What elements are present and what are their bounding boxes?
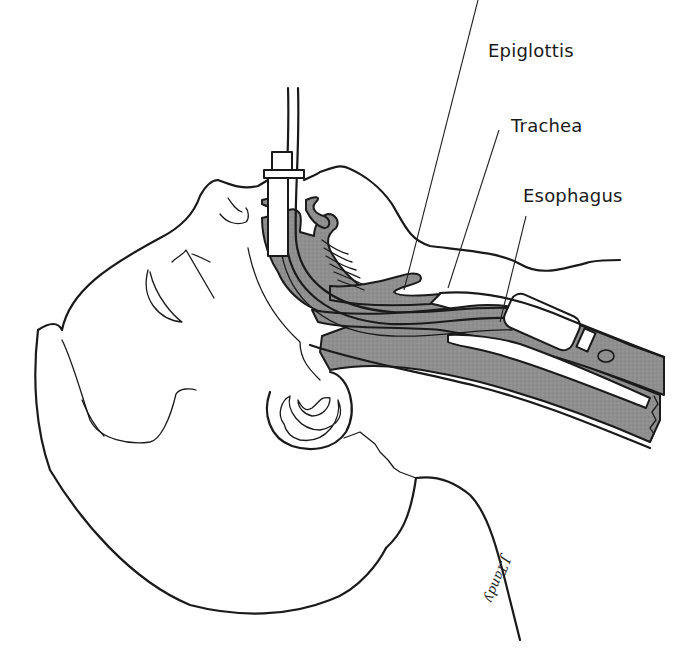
label-trachea: Trachea (511, 115, 583, 136)
label-esophagus: Esophagus (523, 185, 623, 206)
intubation-illustration (0, 0, 677, 649)
ear (267, 372, 352, 449)
label-epiglottis: Epiglottis (488, 40, 574, 61)
